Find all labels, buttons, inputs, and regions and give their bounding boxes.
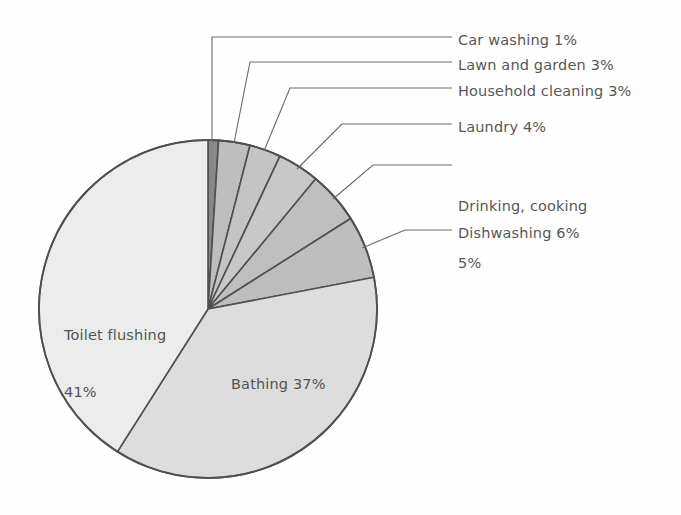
pie-chart-figure: Car washing 1% Lawn and garden 3% Househ…	[0, 0, 681, 515]
callout-label-car-washing: Car washing 1%	[458, 31, 577, 50]
leader-line-laundry	[297, 124, 452, 169]
callout-label-drinking-cooking-line1: Drinking, cooking	[458, 197, 587, 216]
leader-line-drinking-cooking	[333, 165, 452, 199]
callout-label-household-cleaning: Household cleaning 3%	[458, 82, 632, 101]
leader-line-household-cleaning	[264, 88, 452, 151]
slice-label-toilet-flushing-line2: 41%	[64, 383, 166, 402]
slice-label-toilet-flushing-line1: Toilet flushing	[64, 326, 166, 345]
callout-label-laundry: Laundry 4%	[458, 118, 546, 137]
leader-line-car-washing	[212, 37, 452, 141]
slice-label-toilet-flushing: Toilet flushing 41%	[64, 288, 166, 440]
leader-line-dishwashing	[362, 230, 452, 248]
leader-line-lawn-and-garden	[234, 62, 452, 143]
callout-label-lawn-and-garden: Lawn and garden 3%	[458, 56, 614, 75]
callout-label-dishwashing: Dishwashing 6%	[458, 224, 580, 243]
callout-label-drinking-cooking-line2: 5%	[458, 254, 587, 273]
slice-label-bathing: Bathing 37%	[231, 375, 326, 394]
